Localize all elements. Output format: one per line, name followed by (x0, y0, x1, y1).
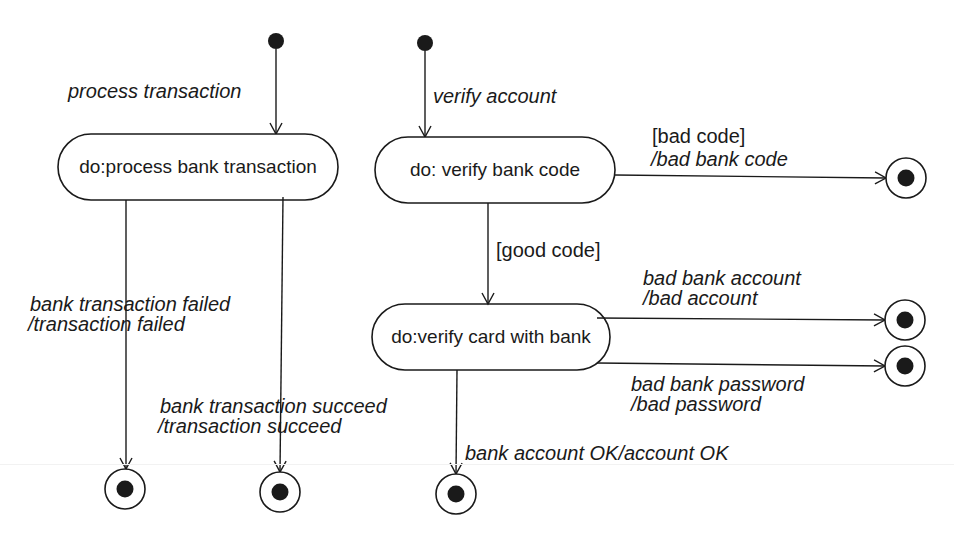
state-label-verify-card-with-bank: do:verify card with bank (372, 304, 610, 370)
state-label-verify-bank-code: do: verify bank code (375, 137, 615, 203)
label-bad-bank-account: bad bank account (643, 268, 801, 288)
scan-artifact-line (0, 464, 954, 465)
label-bad-bank-code-action: /bad bank code (651, 149, 788, 169)
label-verify-account: verify account (433, 86, 556, 106)
initial-state-left (268, 33, 284, 49)
label-bad-bank-password: bad bank password (631, 374, 804, 394)
final-state-transaction-succeed (260, 472, 300, 512)
transition-account-ok (456, 370, 457, 474)
label-good-code-guard: [good code] (496, 240, 601, 260)
final-state-account-ok (436, 474, 476, 514)
final-state-transaction-failed (105, 469, 145, 509)
label-account-ok: bank account OK/account OK (465, 443, 729, 463)
label-bad-account-action: /bad account (643, 288, 758, 308)
state-label-process-bank-transaction: do:process bank transaction (58, 134, 338, 200)
label-process-transaction: process transaction (68, 81, 241, 101)
label-bad-code-guard: [bad code] (652, 126, 745, 146)
initial-state-right (417, 35, 433, 51)
final-state-bad-bank-code (886, 158, 926, 198)
label-transaction-failed-action: /transaction failed (28, 314, 185, 334)
transition-bad-password (597, 363, 885, 366)
label-transaction-succeed-action: /transaction succeed (158, 416, 341, 436)
label-bank-transaction-succeed: bank transaction succeed (160, 396, 387, 416)
label-bank-transaction-failed: bank transaction failed (30, 294, 230, 314)
final-state-bad-password (885, 346, 925, 386)
transition-bad-account (597, 318, 885, 320)
transition-bad-code (615, 175, 886, 178)
label-bad-password-action: /bad password (631, 394, 761, 414)
final-state-bad-account (885, 300, 925, 340)
